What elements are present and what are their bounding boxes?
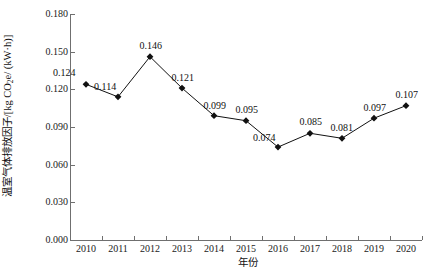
y-tick-label: 0.060 bbox=[26, 160, 68, 170]
x-axis-title: 年份 bbox=[238, 257, 258, 269]
x-tick-mark bbox=[294, 236, 295, 240]
x-tick-mark bbox=[166, 236, 167, 240]
x-tick-mark bbox=[390, 236, 391, 240]
data-point-marker bbox=[83, 81, 90, 88]
data-point-marker bbox=[403, 102, 410, 109]
y-tick-mark bbox=[71, 165, 75, 166]
y-tick-label-group: 0.0000.0300.0600.0900.1200.1500.180 bbox=[24, 0, 68, 275]
x-tick-mark bbox=[198, 236, 199, 240]
data-series-line bbox=[70, 14, 422, 240]
data-point-label: 0.146 bbox=[140, 41, 163, 51]
data-point-label: 0.097 bbox=[364, 103, 387, 113]
plot-area bbox=[70, 14, 422, 240]
x-tick-mark bbox=[262, 236, 263, 240]
x-axis-line bbox=[70, 240, 422, 241]
x-tick-label: 2020 bbox=[386, 243, 426, 255]
x-tick-mark bbox=[326, 236, 327, 240]
y-axis-title: 温室气体排放因子/[kg CO2e/ (kW·h)] bbox=[0, 0, 16, 232]
y-axis-title-subscript: 2 bbox=[6, 79, 15, 83]
y-tick-mark bbox=[71, 52, 75, 53]
data-point-marker bbox=[339, 135, 346, 142]
data-point-label: 0.085 bbox=[300, 117, 323, 127]
data-point-marker bbox=[307, 130, 314, 137]
x-tick-label-group: 2010201120122013201420152016201720182019… bbox=[70, 243, 422, 257]
y-tick-mark bbox=[71, 127, 75, 128]
x-tick-mark bbox=[230, 236, 231, 240]
data-point-label: 0.107 bbox=[396, 90, 419, 100]
x-tick-mark bbox=[134, 236, 135, 240]
y-tick-label: 0.000 bbox=[26, 235, 68, 245]
x-tick-mark bbox=[422, 236, 423, 240]
y-tick-label: 0.120 bbox=[26, 84, 68, 94]
data-point-label: 0.081 bbox=[331, 123, 354, 133]
data-point-label: 0.121 bbox=[172, 73, 195, 83]
y-axis-title-prefix: 温室气体排放因子/[kg CO bbox=[2, 83, 13, 197]
x-tick-mark bbox=[70, 236, 71, 240]
data-point-label: 0.099 bbox=[204, 101, 227, 111]
chart-container: 温室气体排放因子/[kg CO2e/ (kW·h)] 0.0000.0300.0… bbox=[0, 0, 432, 275]
data-point-label: 0.095 bbox=[236, 105, 259, 115]
y-tick-label: 0.180 bbox=[26, 9, 68, 19]
y-tick-mark bbox=[71, 202, 75, 203]
y-tick-label: 0.030 bbox=[26, 197, 68, 207]
data-point-label: 0.074 bbox=[253, 133, 276, 143]
data-point-label: 0.114 bbox=[94, 82, 116, 92]
y-tick-label: 0.090 bbox=[26, 122, 68, 132]
x-tick-mark bbox=[358, 236, 359, 240]
y-tick-label: 0.150 bbox=[26, 47, 68, 57]
data-point-label: 0.124 bbox=[53, 68, 76, 78]
series-polyline bbox=[86, 57, 406, 147]
x-tick-mark bbox=[102, 236, 103, 240]
data-point-marker bbox=[371, 115, 378, 122]
y-tick-mark bbox=[71, 89, 75, 90]
y-axis-title-suffix: e/ (kW·h)] bbox=[2, 35, 13, 80]
y-tick-mark bbox=[71, 14, 75, 15]
